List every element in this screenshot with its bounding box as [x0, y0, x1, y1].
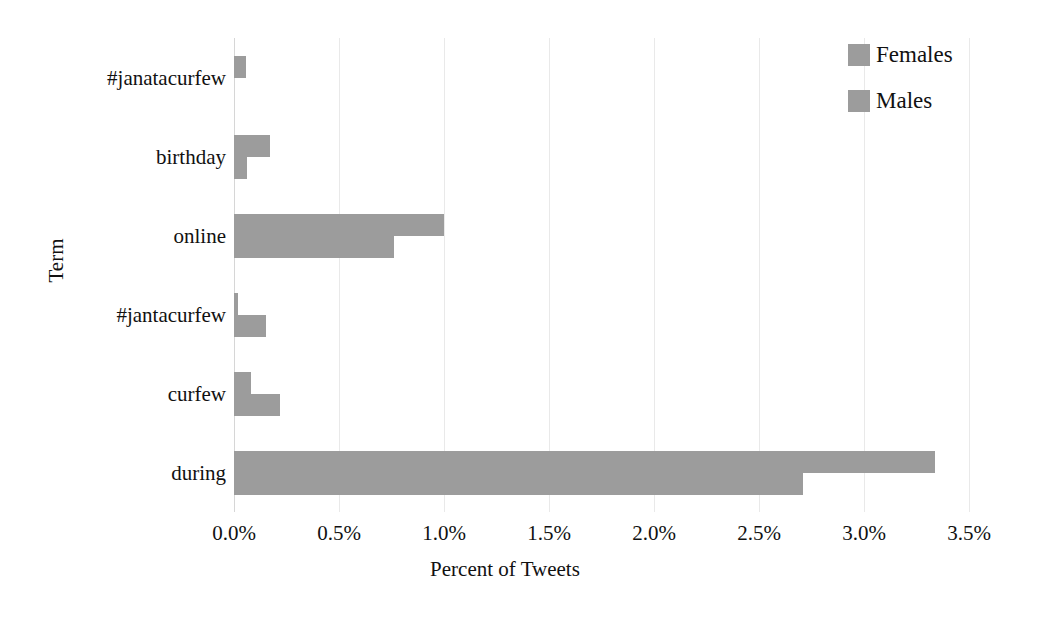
- x-tick-label: 3.0%: [804, 521, 924, 546]
- bar: [234, 293, 238, 315]
- bar-group: [234, 451, 969, 495]
- x-axis-title: Percent of Tweets: [0, 557, 1010, 582]
- gridline-0.5%: [339, 38, 340, 512]
- bar: [234, 473, 803, 495]
- legend: FemalesMales: [848, 40, 1048, 132]
- legend-entry[interactable]: Females: [848, 40, 1048, 86]
- bar: [234, 214, 444, 236]
- y-tick-label: #jantacurfew: [6, 304, 226, 326]
- bar: [234, 372, 251, 394]
- bar-group: [234, 135, 969, 179]
- bar: [234, 236, 394, 258]
- bar: [234, 56, 246, 78]
- bar: [234, 315, 266, 337]
- legend-swatch: [848, 90, 870, 112]
- gridline-1.0%: [444, 38, 445, 512]
- x-tick-label: 1.5%: [489, 521, 609, 546]
- bar: [234, 451, 935, 473]
- legend-label: Females: [876, 40, 953, 70]
- y-tick-label: birthday: [6, 146, 226, 168]
- bar-chart: #janatacurfewbirthdayonline#jantacurfewc…: [0, 0, 1063, 621]
- gridline-0.0%: [234, 38, 235, 512]
- x-axis-tick-labels: 0.0%0.5%1.0%1.5%2.0%2.5%3.0%3.5%: [0, 521, 1063, 555]
- gridline-2.5%: [759, 38, 760, 512]
- x-tick-label: 3.5%: [909, 521, 1029, 546]
- x-tick-label: 0.5%: [279, 521, 399, 546]
- bar-group: [234, 293, 969, 337]
- legend-swatch: [848, 44, 870, 66]
- x-tick-label: 1.0%: [384, 521, 504, 546]
- y-axis-tick-labels: #janatacurfewbirthdayonline#jantacurfewc…: [0, 38, 226, 512]
- bar: [234, 394, 280, 416]
- gridline-1.5%: [549, 38, 550, 512]
- y-tick-label: during: [6, 462, 226, 484]
- bar-group: [234, 214, 969, 258]
- y-tick-label: #janatacurfew: [6, 67, 226, 89]
- x-tick-label: 0.0%: [174, 521, 294, 546]
- bar-group: [234, 372, 969, 416]
- legend-entry[interactable]: Males: [848, 86, 1048, 132]
- gridline-2.0%: [654, 38, 655, 512]
- bar: [234, 135, 270, 157]
- bar: [234, 157, 247, 179]
- y-tick-label: online: [6, 225, 226, 247]
- x-tick-label: 2.0%: [594, 521, 714, 546]
- x-tick-label: 2.5%: [699, 521, 819, 546]
- y-tick-label: curfew: [6, 383, 226, 405]
- legend-label: Males: [876, 86, 932, 116]
- y-axis-title: Term: [44, 201, 69, 321]
